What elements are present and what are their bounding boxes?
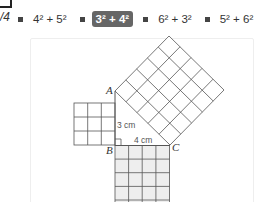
vertex-b-label: B [106,144,113,156]
side-ab-length: 3 cm [117,120,135,130]
vertex-c-label: C [172,141,180,153]
vertex-a-label: A [105,84,113,96]
left-square-grid [74,103,115,145]
side-bc-length: 4 cm [134,135,152,145]
pythagoras-diagram: A B C 3 cm 4 cm [0,0,263,202]
bottom-square-grid [115,146,170,203]
right-angle-marker [115,139,121,146]
